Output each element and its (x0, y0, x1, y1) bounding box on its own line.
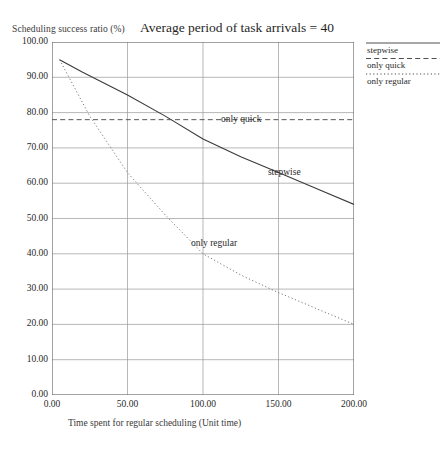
series-annotation: only quick (221, 114, 261, 124)
x-axis-tick-labels: 0.0050.00100.00150.00200.00 (52, 399, 354, 415)
y-tick-label: 90.00 (27, 71, 48, 81)
y-axis-tick-labels: 0.0010.0020.0030.0040.0050.0060.0070.008… (0, 42, 48, 395)
x-tick-label: 0.00 (44, 399, 61, 409)
plot-svg (52, 42, 354, 395)
x-tick-label: 50.00 (117, 399, 138, 409)
y-tick-label: 60.00 (27, 177, 48, 187)
y-tick-label: 40.00 (27, 248, 48, 258)
y-tick-label: 80.00 (27, 107, 48, 117)
x-axis-title: Time spent for regular scheduling (Unit … (68, 418, 241, 428)
y-tick-label: 70.00 (27, 142, 48, 152)
x-tick-label: 100.00 (190, 399, 216, 409)
y-axis-title: Scheduling success ratio (%) (12, 24, 125, 34)
y-tick-label: 20.00 (27, 318, 48, 328)
y-tick-label: 10.00 (27, 354, 48, 364)
y-tick-label: 100.00 (22, 36, 48, 46)
series-annotation: stepwise (268, 167, 301, 177)
x-tick-label: 150.00 (265, 399, 291, 409)
plot-area: only quickstepwiseonly regular (52, 42, 354, 395)
series-annotation: only regular (191, 238, 237, 248)
chart-figure: Scheduling success ratio (%) Average per… (0, 0, 442, 449)
legend-label-only-quick: only quick (367, 60, 405, 70)
chart-legend: stepwiseonly quickonly regular (364, 41, 442, 89)
chart-title: Average period of task arrivals = 40 (140, 20, 334, 36)
series-line-only-regular (60, 60, 354, 325)
y-tick-label: 30.00 (27, 283, 48, 293)
x-tick-label: 200.00 (341, 399, 367, 409)
series-line-stepwise (60, 60, 354, 205)
legend-label-only-regular: only regular (367, 76, 411, 86)
y-tick-label: 50.00 (27, 213, 48, 223)
legend-label-stepwise: stepwise (367, 45, 398, 55)
y-tick-label: 0.00 (31, 389, 48, 399)
